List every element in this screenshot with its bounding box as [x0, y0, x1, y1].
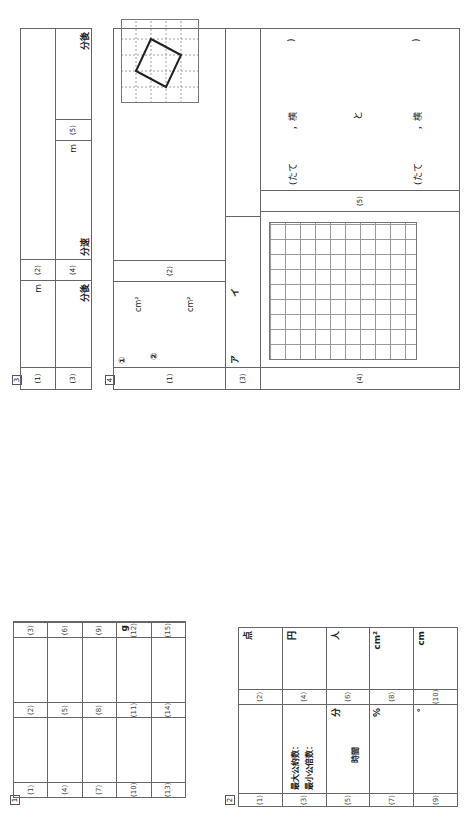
s3-row-2: (3) 分後 (4) 分速 m (5) 分後 [56, 29, 91, 389]
s4-q4-answer [260, 212, 459, 367]
s3-q3-answer[interactable]: 分後 [56, 281, 91, 367]
s2-question-label: (2) [239, 689, 283, 704]
s3-q2-label: (2) [21, 259, 56, 281]
s2-question-label: (8) [370, 689, 414, 704]
s3-q2-answer[interactable] [21, 29, 56, 259]
s1-answer-cell[interactable] [82, 718, 116, 782]
s2-hours-label: 時間 [349, 747, 360, 763]
s4-q1-sub2: ② [149, 352, 159, 360]
s1-question-label: (14) [151, 702, 185, 717]
s1-question-label: (10) [117, 782, 151, 797]
s4-q1-label: (1) [114, 367, 226, 389]
s4-q5-l1c: ) [286, 38, 296, 42]
s3-q5-answer[interactable]: 分後 [56, 29, 91, 119]
s3-q4-answer[interactable]: 分速 m [56, 141, 91, 259]
s3-q4-label: (4) [56, 259, 91, 281]
s1-unit: g [119, 625, 129, 631]
s2-row: (3)最大公約数：最小公倍数：(4)円 [282, 628, 326, 807]
s2-unit: 点 [241, 631, 254, 640]
s4-q5-answer[interactable]: (たて ，横 ) と (たて ，横 ) [260, 29, 459, 190]
s4-q3-answer[interactable]: ア イ [226, 217, 260, 367]
s4-q2-answer [114, 29, 226, 260]
s4-q5-l2b: ，横 [411, 112, 424, 130]
s2-answer-cell[interactable]: 人 [326, 628, 370, 690]
s4-q4-grid-paper[interactable] [269, 222, 417, 360]
s1-row: (13)(14)(15) [151, 622, 185, 798]
s2-answer-cell[interactable]: % [370, 705, 414, 794]
s3-q4-unit1: 分速 [78, 238, 91, 256]
s2-answer-cell[interactable]: ° [414, 705, 458, 794]
s2-unit: 円 [285, 631, 298, 640]
section-4-box: (1) ① ② cm² cm² (2) (3) ア [113, 28, 460, 390]
s1-answer-cell[interactable] [117, 718, 151, 782]
s1-answer-cell[interactable] [48, 622, 82, 623]
s3-q1-label: (1) [21, 367, 56, 389]
s1-answer-cell[interactable] [14, 638, 48, 702]
s1-answer-cell[interactable] [151, 638, 185, 702]
s1-question-label: (2) [14, 702, 48, 717]
answer-sheet: 1 (1)(2)(3)(4)(5)(6)(7)(8)(9)(10)(11)(12… [0, 0, 466, 820]
s1-question-label: (13) [151, 782, 185, 797]
s2-question-label: (10) [414, 689, 458, 704]
s1-answer-cell[interactable] [48, 718, 82, 782]
s1-answer-cell[interactable] [117, 638, 151, 702]
s3-row-1: (1) m (2) [21, 29, 56, 389]
s2-row: (1)(2)点 [239, 628, 283, 807]
s2-unit: cm [416, 631, 426, 646]
s2-unit: 人 [329, 631, 342, 640]
s2-answer-cell[interactable]: 点 [239, 628, 283, 690]
s1-question-label: (5) [48, 702, 82, 717]
s1-answer-cell[interactable] [82, 622, 116, 623]
s1-answer-cell[interactable] [48, 638, 82, 702]
s2-question-label: (3) [282, 794, 326, 807]
s1-answer-cell[interactable]: g [117, 622, 151, 623]
s1-question-label: (4) [48, 782, 82, 797]
s2-question-label: (7) [370, 794, 414, 807]
s2-answer-cell[interactable]: 最大公約数：最小公倍数： [282, 705, 326, 794]
s1-answer-cell[interactable] [151, 622, 185, 623]
s2-question-label: (9) [414, 794, 458, 807]
section-2-number: 2 [225, 795, 235, 805]
s2-row: (5)時間分(6)人 [326, 628, 370, 807]
s2-gcd-label: 最大公約数： [289, 742, 300, 790]
s2-question-label: (6) [326, 689, 370, 704]
s1-row: (10)(11)(12)g [117, 622, 151, 798]
s4-q1-answer[interactable]: ① ② cm² cm² [114, 282, 226, 367]
s4-q5-mid: と [351, 111, 364, 120]
s4-q5-l2c: ) [411, 38, 421, 42]
s1-answer-cell[interactable] [151, 718, 185, 782]
s1-question-label: (8) [82, 702, 116, 717]
s1-answer-cell[interactable] [14, 622, 48, 623]
s1-row: (1)(2)(3) [14, 622, 48, 798]
s1-row: (4)(5)(6) [48, 622, 82, 798]
s1-question-label: (15) [151, 623, 185, 638]
s1-question-label: (1) [14, 782, 48, 797]
s3-q1-answer[interactable]: m [21, 281, 56, 367]
s2-answer-cell[interactable]: cm [414, 628, 458, 690]
s1-question-label: (7) [82, 782, 116, 797]
section-1-table: (1)(2)(3)(4)(5)(6)(7)(8)(9)(10)(11)(12)g… [13, 621, 186, 798]
s3-q3-unit: 分後 [78, 284, 91, 302]
s4-q1-sub1: ① [117, 356, 127, 364]
s4-q3-label: (3) [226, 367, 260, 389]
s2-row: (7)%(8)cm² [370, 628, 414, 807]
s4-q1-unit2: cm² [186, 297, 195, 312]
s2-answer-cell[interactable] [239, 705, 283, 794]
s4-q3-b: イ [228, 288, 241, 297]
s2-answer-cell[interactable]: 時間分 [326, 705, 370, 794]
s2-unit: 分 [329, 708, 342, 717]
s2-answer-cell[interactable]: 円 [282, 628, 326, 690]
s2-answer-cell[interactable]: cm² [370, 628, 414, 690]
s1-answer-cell[interactable] [14, 718, 48, 782]
s3-q5-label: (5) [56, 119, 91, 141]
s2-row: (9)°(10)cm [414, 628, 458, 807]
s2-unit: ° [416, 708, 426, 713]
s2-unit: cm² [372, 631, 382, 650]
section-3-box: (1) m (2) (3) 分後 (4) 分速 m (5) 分後 [20, 28, 92, 390]
s2-unit: % [372, 708, 382, 717]
s4-q4-label: (4) [260, 367, 459, 389]
s3-q4-unit2: m [68, 144, 78, 153]
s4-q5-l1a: (たて [286, 163, 299, 185]
section-2-table: (1)(2)点(3)最大公約数：最小公倍数：(4)円(5)時間分(6)人(7)%… [238, 627, 458, 807]
s1-answer-cell[interactable] [82, 638, 116, 702]
